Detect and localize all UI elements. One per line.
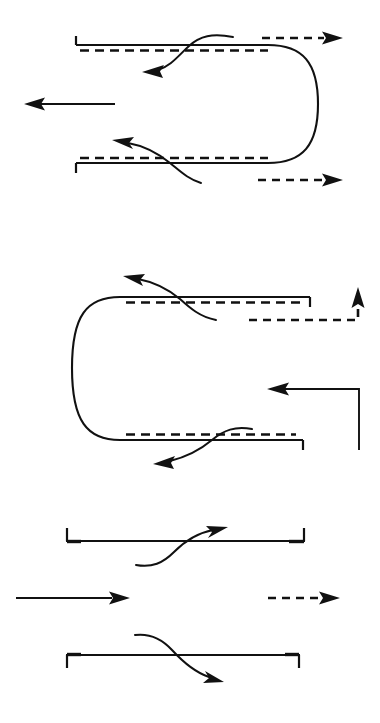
diagram-root: Traffic maneuver diagram Three stacked s… bbox=[0, 0, 380, 723]
panel-1-u-turn-right-loop bbox=[24, 32, 343, 187]
panel1-upper-exit-arrow-dashed-head bbox=[322, 32, 343, 45]
panel1-upper-lane-change-arrow-head bbox=[142, 65, 164, 78]
panel2-lower-lane-change-curve bbox=[170, 428, 252, 461]
panel2-upper-lane-change-curve bbox=[138, 279, 216, 320]
panel1-lower-exit-arrow-dashed-head bbox=[322, 174, 343, 187]
panel2-lower-lane-change-arrow-head bbox=[153, 456, 175, 469]
panel3-upper-lane-change-curve bbox=[136, 530, 213, 566]
panel3-center-flow-arrow-solid-head bbox=[109, 592, 130, 605]
panel-2-u-turn-left-loop bbox=[72, 274, 365, 469]
panel3-upper-lane-change-arrow-head bbox=[206, 526, 228, 538]
panel2-dashed-riser-arrow-head bbox=[352, 287, 365, 308]
panel-3-straight-roads bbox=[16, 526, 340, 683]
panel1-upper-lane-change-curve bbox=[158, 35, 233, 70]
figure-canvas: Traffic maneuver diagram Three stacked s… bbox=[0, 0, 380, 723]
panel2-dashed-riser-shaft bbox=[249, 303, 358, 320]
panel1-u-turn-loop bbox=[268, 45, 318, 163]
panel2-u-turn-loop bbox=[72, 297, 120, 440]
panel3-center-flow-arrow-dashed-head bbox=[319, 592, 340, 605]
